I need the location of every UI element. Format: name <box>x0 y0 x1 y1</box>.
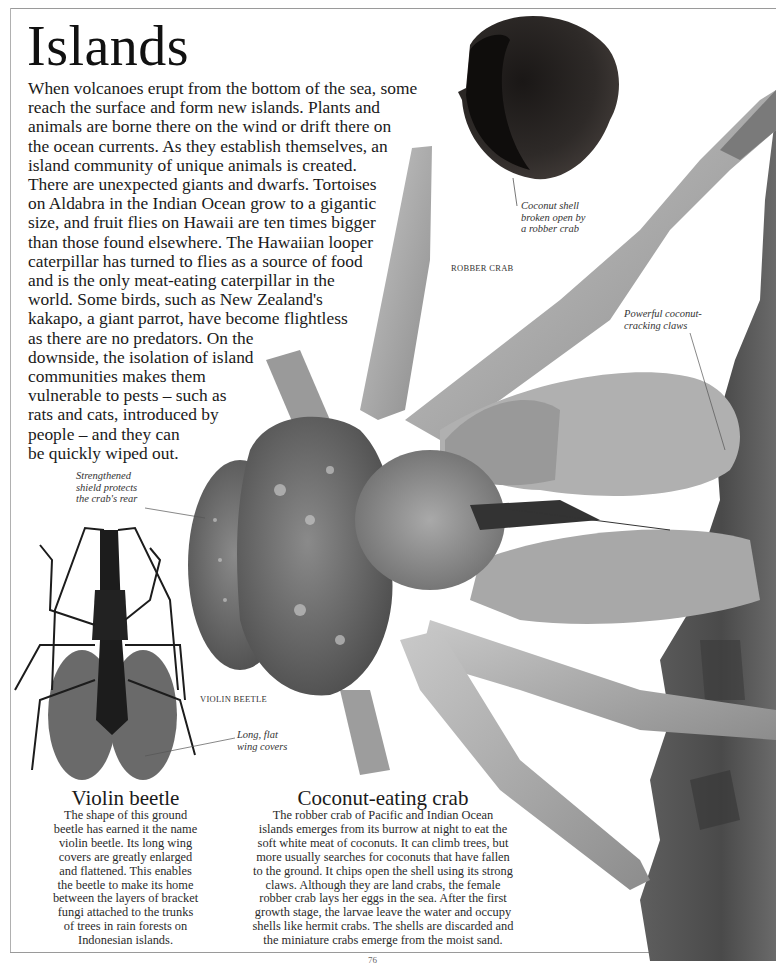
caption-line: the crab's rear <box>76 493 137 505</box>
caption-line: Powerful coconut- <box>624 308 702 320</box>
body-line: The shape of this ground <box>18 809 233 823</box>
body-line: violin beetle. Its long wing <box>18 837 233 851</box>
intro-line: communities makes them <box>28 367 417 386</box>
intro-line: downside, the isolation of island <box>28 348 417 367</box>
body-line: islands emerges from its burrow at night… <box>243 823 523 837</box>
intro-line: reach the surface and form new islands. … <box>28 98 417 117</box>
body-line: more usually searches for coconuts that … <box>243 851 523 865</box>
caption-coconut-shell: Coconut shell broken open by a robber cr… <box>521 200 585 235</box>
intro-line: caterpillar has turned to flies as a sou… <box>28 252 417 271</box>
label-violin-beetle: VIOLIN BEETLE <box>200 694 267 704</box>
body-line: robber crab lays her eggs in the sea. Af… <box>243 892 523 906</box>
body-line: soft white meat of coconuts. It can clim… <box>243 837 523 851</box>
section-heading: Violin beetle <box>18 787 233 809</box>
body-line: the beetle to make its home <box>18 879 233 893</box>
intro-line: There are unexpected giants and dwarfs. … <box>28 175 417 194</box>
body-line: and flattened. This enables <box>18 865 233 879</box>
intro-line: and is the only meat-eating caterpillar … <box>28 271 417 290</box>
body-line: growth stage, the larvae leave the water… <box>243 906 523 920</box>
body-line: of trees in rain forests on <box>18 920 233 934</box>
intro-line: vulnerable to pests – such as <box>28 386 417 405</box>
caption-line: shield protects <box>76 482 137 494</box>
coconut-shell-image <box>458 16 619 206</box>
body-line: The robber crab of Pacific and Indian Oc… <box>243 809 523 823</box>
body-line: covers are greatly enlarged <box>18 851 233 865</box>
page-number: 76 <box>368 955 377 965</box>
intro-line: be quickly wiped out. <box>28 444 417 463</box>
body-line: the miniature crabs emerge from the mois… <box>243 934 523 948</box>
intro-paragraph: When volcanoes erupt from the bottom of … <box>28 79 417 463</box>
body-line: claws. Although they are land crabs, the… <box>243 879 523 893</box>
caption-line: a robber crab <box>521 223 585 235</box>
caption-line: Strengthened <box>76 470 137 482</box>
section-body: The robber crab of Pacific and Indian Oc… <box>243 809 523 948</box>
intro-line: as there are no predators. On the <box>28 329 417 348</box>
body-line: to the ground. It chips open the shell u… <box>243 865 523 879</box>
intro-line: the ocean currents. As they establish th… <box>28 137 417 156</box>
caption-wing-covers: Long, flat wing covers <box>237 729 287 752</box>
caption-line: Coconut shell <box>521 200 585 212</box>
body-line: Indonesian islands. <box>18 934 233 948</box>
caption-claws: Powerful coconut- cracking claws <box>624 308 702 331</box>
section-violin-beetle: Violin beetle The shape of this ground b… <box>18 787 233 948</box>
body-line: fungi attached to the trunks <box>18 906 233 920</box>
section-heading: Coconut-eating crab <box>243 787 523 809</box>
body-line: shells like hermit crabs. The shells are… <box>243 920 523 934</box>
page-title: Islands <box>27 14 189 78</box>
intro-line: size, and fruit flies on Hawaii are ten … <box>28 213 417 232</box>
caption-line: broken open by <box>521 212 585 224</box>
body-line: beetle has earned it the name <box>18 823 233 837</box>
intro-line: kakapo, a giant parrot, have become flig… <box>28 309 417 328</box>
caption-line: cracking claws <box>624 320 702 332</box>
section-body: The shape of this ground beetle has earn… <box>18 809 233 948</box>
label-robber-crab: ROBBER CRAB <box>451 263 514 273</box>
intro-line: than those found elsewhere. The Hawaiian… <box>28 233 417 252</box>
section-coconut-crab: Coconut-eating crab The robber crab of P… <box>243 787 523 948</box>
intro-line: people – and they can <box>28 425 417 444</box>
intro-line: island community of unique animals is cr… <box>28 156 417 175</box>
intro-line: When volcanoes erupt from the bottom of … <box>28 79 417 98</box>
intro-line: world. Some birds, such as New Zealand's <box>28 290 417 309</box>
intro-line: rats and cats, introduced by <box>28 405 417 424</box>
intro-line: on Aldabra in the Indian Ocean grow to a… <box>28 194 417 213</box>
caption-line: Long, flat <box>237 729 287 741</box>
body-line: between the layers of bracket <box>18 892 233 906</box>
intro-line: animals are borne there on the wind or d… <box>28 117 417 136</box>
violin-beetle-image <box>15 528 195 780</box>
caption-line: wing covers <box>237 741 287 753</box>
caption-shield: Strengthened shield protects the crab's … <box>76 470 137 505</box>
